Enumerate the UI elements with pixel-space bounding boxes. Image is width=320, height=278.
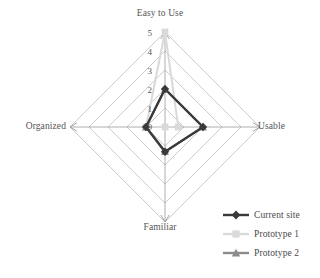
data-point-marker [175,124,182,131]
legend-item[interactable]: Prototype 2 [222,243,318,262]
data-point-marker [232,210,241,219]
legend-swatch-icon [222,208,250,222]
legend-swatch-icon [222,227,250,241]
legend-label: Prototype 1 [250,229,299,239]
radial-tick-label: 5 [136,28,152,38]
legend-item[interactable]: Current site [222,205,318,224]
radial-tick-label: 3 [136,66,152,76]
legend-item[interactable]: Prototype 1 [222,224,318,243]
radial-tick-label: 2 [136,85,152,95]
chart-legend: Current sitePrototype 1Prototype 2 [222,205,318,262]
series-polygon [146,89,203,152]
radial-tick-label: 1 [136,104,152,114]
data-point-marker [162,124,169,131]
axis-label-easy-to-use: Easy to Use [0,8,320,18]
axis-label-usable: Usable [258,121,285,131]
legend-label: Prototype 2 [250,248,299,258]
legend-label: Current site [250,210,300,220]
axis-label-organized: Organized [4,121,66,131]
data-point-marker [162,29,169,36]
radar-chart: Easy to Use Usable Familiar Organized 54… [0,0,320,278]
radial-tick-label: 0 [136,122,152,132]
data-point-marker [232,230,239,237]
radial-tick-label: 4 [136,47,152,57]
legend-swatch-icon [222,246,250,260]
